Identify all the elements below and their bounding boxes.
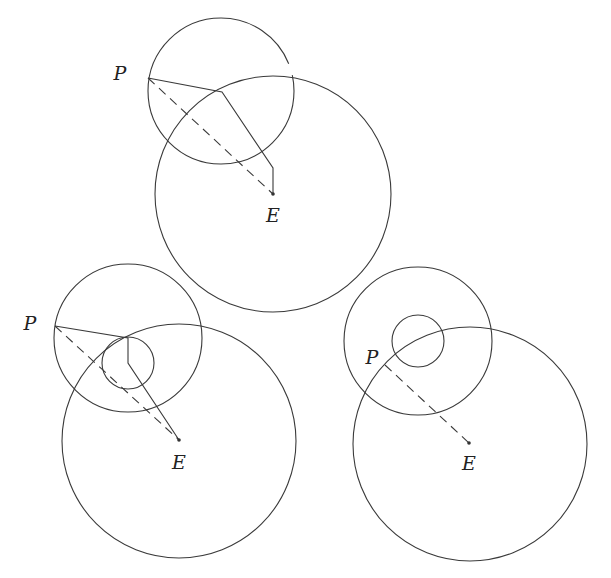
point-e-top: [271, 192, 275, 196]
point-e-br: [467, 441, 471, 445]
label-e-br: E: [461, 452, 476, 474]
point-e-bl: [177, 438, 181, 442]
direct-line-top: [148, 78, 273, 194]
panel-top: P E: [113, 18, 391, 312]
diagram-canvas: P E P E P E: [0, 0, 611, 578]
label-p-top: P: [113, 62, 128, 84]
panel-bottom-left: P E: [23, 264, 296, 558]
label-e-bl: E: [171, 451, 186, 473]
label-p-bl: P: [23, 312, 38, 334]
path-line-top: [148, 78, 273, 194]
panel-bottom-right: P E: [344, 267, 587, 561]
search-circle-br: [344, 267, 492, 415]
label-e-top: E: [265, 204, 280, 226]
label-p-br: P: [365, 346, 380, 368]
search-circle-top: [148, 18, 294, 164]
inner-circle-br: [392, 315, 444, 367]
direct-line-bl: [55, 326, 179, 440]
